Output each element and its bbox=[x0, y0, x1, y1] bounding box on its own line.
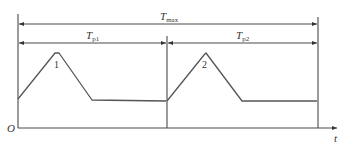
t-p2-label: Tp2 bbox=[236, 29, 250, 43]
peak-1-label: 1 bbox=[54, 59, 59, 70]
origin-label: O bbox=[7, 122, 15, 134]
pulse-1-curve bbox=[18, 53, 166, 101]
t-p1-label: Tp1 bbox=[86, 29, 100, 43]
t-max-label: Tmax bbox=[160, 10, 179, 24]
pulse-timing-diagram: Tmax Tp1 Tp2 1 2 O t bbox=[0, 0, 349, 151]
peak-2-label: 2 bbox=[202, 59, 207, 70]
time-axis-label: t bbox=[334, 132, 338, 144]
pulse-2-curve bbox=[167, 53, 317, 101]
